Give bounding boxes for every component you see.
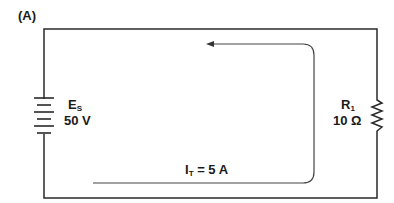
- resistor-subscript: 1: [350, 104, 354, 113]
- current-label: IT = 5 A: [185, 163, 228, 181]
- source-subscript: S: [77, 104, 82, 113]
- current-subscript: T: [189, 169, 194, 178]
- source-name: E: [68, 97, 77, 112]
- resistor-value: 10 Ω: [333, 114, 362, 128]
- battery-icon: [34, 98, 54, 133]
- source-value: 50 V: [64, 114, 91, 128]
- current-equation: = 5 A: [197, 162, 228, 177]
- resistor-name: R: [341, 97, 350, 112]
- resistor-icon: [372, 96, 382, 136]
